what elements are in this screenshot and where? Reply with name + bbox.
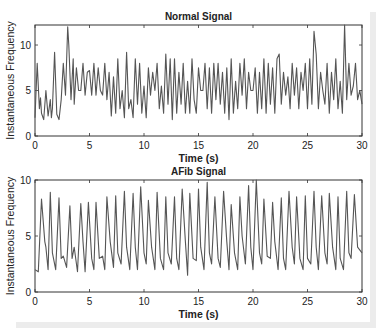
x-tick-label: 10 (138, 296, 150, 307)
plot-normal: 0510152025300510Normal SignalTime (s)Ins… (4, 11, 368, 164)
x-axis-label: Time (s) (178, 152, 218, 164)
x-tick-label: 25 (302, 296, 314, 307)
x-tick-label: 15 (193, 140, 205, 151)
x-tick-label: 0 (32, 140, 38, 151)
chart-title: AFib Signal (171, 166, 226, 177)
y-tick-label: 5 (25, 85, 31, 96)
x-tick-label: 10 (138, 140, 150, 151)
x-tick-label: 20 (247, 140, 259, 151)
x-tick-label: 5 (87, 140, 93, 151)
y-axis-label: Instantaneous Frequency (4, 176, 16, 295)
y-tick-label: 0 (25, 131, 31, 142)
chart-canvas: 0510152025300510Normal SignalTime (s)Ins… (0, 0, 384, 335)
y-axis-label: Instantaneous Frequency (4, 21, 16, 140)
x-tick-label: 25 (302, 140, 314, 151)
x-tick-label: 30 (356, 296, 368, 307)
figure: 0510152025300510Normal SignalTime (s)Ins… (0, 0, 384, 335)
y-tick-label: 5 (25, 231, 31, 242)
x-tick-label: 20 (247, 296, 259, 307)
x-tick-label: 0 (32, 296, 38, 307)
y-tick-label: 0 (25, 287, 31, 298)
x-axis-label: Time (s) (178, 308, 218, 320)
chart-title: Normal Signal (165, 11, 232, 22)
figure-border-bottom (16, 322, 376, 328)
plot-afib: 0510152025300510AFib SignalTime (s)Insta… (4, 166, 368, 320)
figure-border-right (370, 12, 376, 328)
y-tick-label: 10 (20, 175, 32, 186)
x-tick-label: 15 (193, 296, 205, 307)
x-tick-label: 30 (356, 140, 368, 151)
y-tick-label: 10 (20, 40, 32, 51)
x-tick-label: 5 (87, 296, 93, 307)
